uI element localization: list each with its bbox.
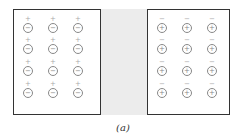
figure-caption: (a) <box>110 122 136 133</box>
dielectric-gap <box>100 9 148 115</box>
circled-minus-icon: − <box>23 66 33 76</box>
right-dipole: −+ <box>205 36 219 56</box>
circled-plus-icon: + <box>157 44 167 54</box>
right-dipole: −+ <box>155 80 169 100</box>
plus-sign-icon: + <box>21 80 35 88</box>
left-dipole: +− <box>46 36 60 56</box>
minus-sign-icon: − <box>155 36 169 44</box>
plus-sign-icon: + <box>46 36 60 44</box>
right-dipole: −+ <box>180 15 194 35</box>
minus-sign-icon: − <box>180 36 194 44</box>
circled-minus-icon: − <box>48 23 58 33</box>
circled-plus-icon: + <box>207 44 217 54</box>
left-dipole: +− <box>21 15 35 35</box>
circled-plus-icon: + <box>157 88 167 98</box>
left-dipole: +− <box>46 58 60 78</box>
left-dipole: +− <box>21 58 35 78</box>
right-dipole: −+ <box>205 15 219 35</box>
minus-sign-icon: − <box>180 80 194 88</box>
circled-minus-icon: − <box>23 88 33 98</box>
circled-minus-icon: − <box>73 88 83 98</box>
circled-plus-icon: + <box>157 23 167 33</box>
plus-sign-icon: + <box>71 36 85 44</box>
minus-sign-icon: − <box>205 58 219 66</box>
plus-sign-icon: + <box>21 15 35 23</box>
circled-plus-icon: + <box>157 66 167 76</box>
circled-minus-icon: − <box>73 23 83 33</box>
plus-sign-icon: + <box>46 58 60 66</box>
circled-minus-icon: − <box>23 44 33 54</box>
minus-sign-icon: − <box>205 15 219 23</box>
left-dipole: +− <box>46 15 60 35</box>
left-dipole: +− <box>71 36 85 56</box>
circled-minus-icon: − <box>73 66 83 76</box>
minus-sign-icon: − <box>180 15 194 23</box>
minus-sign-icon: − <box>155 80 169 88</box>
left-dipole: +− <box>71 15 85 35</box>
left-dipole: +− <box>21 80 35 100</box>
circled-minus-icon: − <box>48 44 58 54</box>
circled-plus-icon: + <box>182 88 192 98</box>
plus-sign-icon: + <box>71 80 85 88</box>
right-dipole: −+ <box>180 36 194 56</box>
circled-minus-icon: − <box>48 66 58 76</box>
right-dipole: −+ <box>155 15 169 35</box>
minus-sign-icon: − <box>205 36 219 44</box>
plus-sign-icon: + <box>21 36 35 44</box>
circled-minus-icon: − <box>48 88 58 98</box>
minus-sign-icon: − <box>155 58 169 66</box>
minus-sign-icon: − <box>155 15 169 23</box>
circled-plus-icon: + <box>207 88 217 98</box>
minus-sign-icon: − <box>205 80 219 88</box>
right-dipole: −+ <box>155 58 169 78</box>
right-dipole: −+ <box>180 58 194 78</box>
plus-sign-icon: + <box>21 58 35 66</box>
right-dipole: −+ <box>205 58 219 78</box>
circled-plus-icon: + <box>182 66 192 76</box>
left-dipole: +− <box>21 36 35 56</box>
left-dipole: +− <box>71 80 85 100</box>
plus-sign-icon: + <box>71 15 85 23</box>
left-dipole: +− <box>46 80 60 100</box>
circled-plus-icon: + <box>182 44 192 54</box>
circled-minus-icon: − <box>23 23 33 33</box>
circled-plus-icon: + <box>182 23 192 33</box>
right-dipole: −+ <box>180 80 194 100</box>
right-dipole: −+ <box>155 36 169 56</box>
minus-sign-icon: − <box>180 58 194 66</box>
circled-plus-icon: + <box>207 66 217 76</box>
circled-plus-icon: + <box>207 23 217 33</box>
plus-sign-icon: + <box>71 58 85 66</box>
plus-sign-icon: + <box>46 80 60 88</box>
circled-minus-icon: − <box>73 44 83 54</box>
left-dipole: +− <box>71 58 85 78</box>
plus-sign-icon: + <box>46 15 60 23</box>
right-dipole: −+ <box>205 80 219 100</box>
